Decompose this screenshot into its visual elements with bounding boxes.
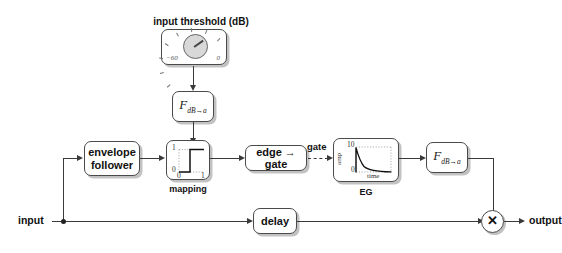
arrowhead-into-mapping bbox=[159, 155, 165, 161]
multiplier-node[interactable]: ✕ bbox=[481, 210, 504, 233]
input-label: input bbox=[18, 214, 44, 226]
edge-to-gate-label: edge → gate bbox=[246, 146, 306, 171]
knob-tick bbox=[167, 84, 171, 87]
eg-y-axis-label: amp bbox=[336, 151, 344, 167]
mapping-xtick-left: 0 bbox=[177, 172, 181, 180]
input-junction-dot bbox=[61, 219, 66, 224]
delay-label: delay bbox=[261, 215, 289, 227]
edge-input-to-delay bbox=[52, 221, 248, 222]
edge-corner-to-multiplier bbox=[493, 158, 494, 214]
eg-ytick-top: 10 bbox=[347, 141, 355, 149]
edge-input-branch-to-envelope bbox=[63, 158, 78, 159]
arrowhead-to-output bbox=[519, 218, 525, 224]
arrowhead-into-envelope-follower bbox=[77, 155, 83, 161]
output-label: output bbox=[529, 214, 562, 226]
edge-delay-to-multiplier bbox=[297, 221, 479, 222]
edge-input-branch-vertical bbox=[63, 158, 64, 221]
db-to-amp-converter-2[interactable]: FdB→a bbox=[426, 142, 468, 173]
envelope-generator-box[interactable]: 10 0 amp time bbox=[333, 138, 399, 182]
envelope-follower-label-line1: envelope bbox=[88, 146, 136, 158]
knob-tick bbox=[205, 30, 207, 34]
knob-min-label: −60 bbox=[166, 55, 178, 63]
edge-envelope-to-mapping bbox=[140, 158, 160, 159]
mapping-ytick-top: 1 bbox=[172, 144, 176, 152]
knob-max-label: 0 bbox=[217, 55, 221, 63]
knob-tick bbox=[217, 38, 220, 41]
edge-eg-to-fdb2 bbox=[399, 158, 421, 159]
threshold-title-label: input threshold (dB) bbox=[141, 16, 261, 27]
gate-edge-label: gate bbox=[307, 141, 327, 152]
envelope-follower-box[interactable]: envelope follower bbox=[84, 141, 140, 176]
knob-tick bbox=[191, 28, 193, 32]
eg-x-axis-label: time bbox=[367, 173, 379, 181]
edge-knob-to-fdb1 bbox=[193, 66, 194, 86]
mapping-xtick-right: 1 bbox=[201, 172, 205, 180]
fdb-formula-2: FdB→a bbox=[433, 149, 461, 166]
multiply-icon: ✕ bbox=[487, 214, 498, 229]
mapping-plot: 1 0 0 1 bbox=[167, 141, 209, 179]
knob-tick bbox=[165, 42, 169, 45]
delay-box[interactable]: delay bbox=[253, 208, 297, 234]
fdb-formula-1: FdB→a bbox=[179, 98, 207, 115]
eg-ytick-bottom: 0 bbox=[351, 166, 355, 174]
eg-caption: EG bbox=[336, 187, 396, 197]
input-threshold-knob[interactable]: −60 0 bbox=[161, 29, 227, 65]
envelope-follower-label-line2: follower bbox=[91, 159, 133, 171]
db-to-amp-converter-1[interactable]: FdB→a bbox=[172, 91, 214, 122]
edge-to-gate-box[interactable]: edge → gate bbox=[245, 145, 307, 171]
edge-gate-dashed bbox=[308, 158, 328, 159]
mapping-ytick-bottom: 0 bbox=[172, 166, 176, 174]
knob-tick bbox=[176, 32, 179, 36]
edge-fdb2-to-corner bbox=[468, 158, 494, 159]
knob-tick bbox=[160, 71, 164, 73]
mapping-box[interactable]: 1 0 0 1 bbox=[166, 140, 210, 180]
edge-multiplier-to-output bbox=[504, 221, 520, 222]
edge-mapping-to-edgegate bbox=[210, 158, 240, 159]
knob-tick bbox=[159, 57, 163, 59]
mapping-caption: mapping bbox=[150, 184, 226, 194]
eg-plot: 10 0 amp time bbox=[334, 139, 398, 181]
knob-face: −60 0 bbox=[162, 30, 226, 64]
